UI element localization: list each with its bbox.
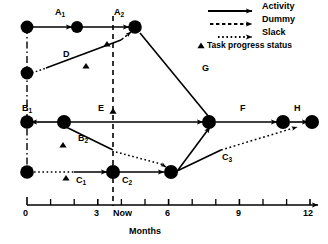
node-A2-end — [128, 20, 142, 34]
tick-label-6: 6 — [165, 209, 170, 218]
activity-label-C1: C1 — [76, 176, 86, 185]
progress-marker-B2 — [59, 142, 66, 148]
x-axis-title: Months — [129, 227, 161, 236]
legend-label-progress: Task progress status — [207, 41, 292, 50]
node-C2-end — [164, 165, 178, 179]
progress-marker-group — [59, 41, 116, 181]
node-B1-end — [57, 115, 71, 129]
progress-marker-D — [82, 63, 89, 69]
diagram-canvas: A1 A2 D G B1 B2 E F H C1 C2 C3 0 3 6 9 1… — [0, 0, 328, 244]
tick-label-0: 0 — [23, 209, 28, 218]
activity-label-A1: A1 — [55, 8, 65, 17]
activity-label-F: F — [240, 104, 246, 113]
activity-label-B1: B1 — [22, 104, 32, 113]
node-F-end — [276, 115, 290, 129]
activity-label-A2: A2 — [114, 8, 124, 17]
node-start-C — [20, 165, 34, 179]
activity-label-B2: B2 — [78, 134, 88, 143]
node-start-A — [21, 21, 34, 34]
progress-marker-E — [109, 108, 116, 114]
activity-label-C3: C3 — [222, 153, 232, 162]
edge-D — [32, 32, 131, 73]
node-FH-junction — [202, 115, 216, 129]
now-label: Now — [113, 209, 132, 218]
tick-label-3: 3 — [94, 209, 99, 218]
node-C1-end — [106, 165, 120, 179]
legend-label-dummy: Dummy — [262, 15, 295, 24]
node-start-D — [21, 67, 34, 80]
node-A1-end — [71, 21, 83, 33]
node-start-B — [20, 115, 34, 129]
legend-label-slack: Slack — [262, 28, 286, 37]
activity-label-G: G — [202, 64, 209, 73]
node-H-end — [305, 115, 319, 129]
tick-label-12: 12 — [303, 209, 313, 218]
x-axis — [27, 197, 318, 205]
activity-label-C2: C2 — [122, 176, 132, 185]
activity-label-D: D — [63, 50, 70, 59]
legend-label-activity: Activity — [262, 2, 295, 11]
edge-C3 — [177, 127, 297, 171]
tick-label-9: 9 — [236, 209, 241, 218]
activity-label-H: H — [294, 104, 301, 113]
progress-marker-C1 — [62, 175, 69, 181]
activity-label-E: E — [98, 104, 104, 113]
triangle-icon — [196, 41, 206, 51]
